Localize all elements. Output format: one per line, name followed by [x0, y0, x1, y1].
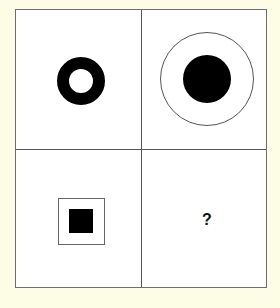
cell-bottom-right: ?	[142, 150, 266, 287]
filled-disc-shape	[183, 55, 231, 103]
question-mark-label: ?	[192, 210, 222, 230]
puzzle-grid: ?	[15, 9, 267, 288]
cell-bottom-left	[16, 150, 141, 287]
cell-top-left	[16, 10, 141, 149]
filled-square-shape	[69, 209, 93, 233]
thick-ring-shape	[57, 57, 105, 105]
cell-top-right	[142, 10, 266, 149]
